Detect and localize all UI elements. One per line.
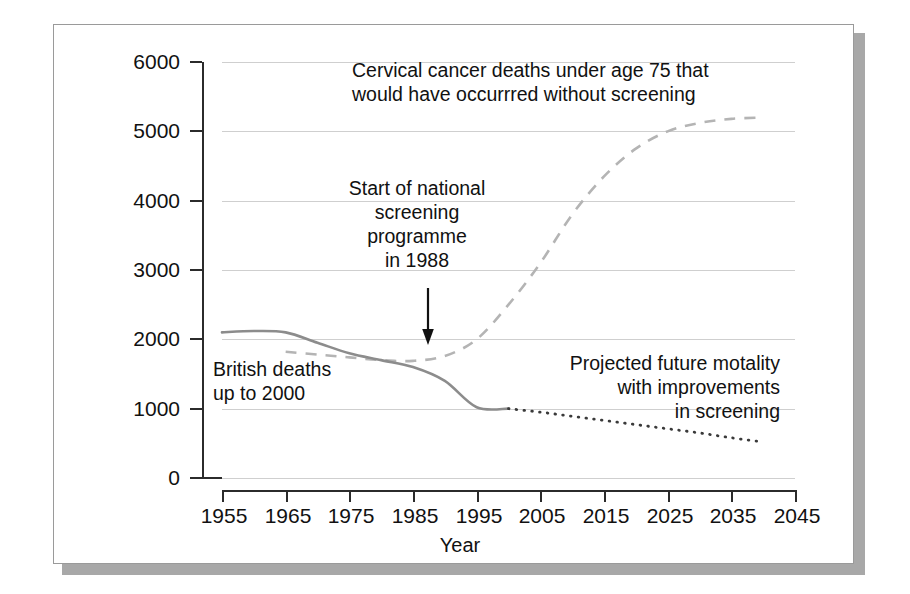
x-axis-title: Year <box>0 534 910 557</box>
x-tick-1975 <box>349 490 351 502</box>
y-tick-6000 <box>190 61 202 63</box>
y-tick-2000 <box>190 338 202 340</box>
y-tick-label-3000: 3000 <box>110 259 180 280</box>
y-tick-label-6000: 6000 <box>110 51 180 72</box>
x-axis-title-text: Year <box>440 534 480 556</box>
y-tick-label-2000: 2000 <box>110 328 180 349</box>
y-tick-3000 <box>190 269 202 271</box>
y-tick-label-4000: 4000 <box>110 190 180 211</box>
y-tick-label-1000: 1000 <box>110 398 180 419</box>
y-tick-4000 <box>190 200 202 202</box>
y-tick-0 <box>190 477 202 479</box>
figure-root: 6000 5000 4000 3000 2000 1000 0 Annual d… <box>0 0 910 594</box>
x-tick-label-2045: 2045 <box>757 505 837 527</box>
y-tick-label-0: 0 <box>110 467 180 488</box>
x-tick-2015 <box>604 490 606 502</box>
annotation-screening-start: Start of national screening programme in… <box>322 176 512 272</box>
y-tick-label-5000: 5000 <box>110 120 180 141</box>
x-tick-2025 <box>668 490 670 502</box>
gridline-2000 <box>222 339 795 340</box>
x-tick-1985 <box>413 490 415 502</box>
gridline-5000 <box>222 131 795 132</box>
y-tick-1000 <box>190 408 202 410</box>
y-tick-5000 <box>190 130 202 132</box>
x-tick-2045 <box>795 490 797 502</box>
y-axis-line <box>202 62 204 479</box>
x-tick-2005 <box>540 490 542 502</box>
x-tick-2035 <box>731 490 733 502</box>
x-tick-1955 <box>222 490 224 502</box>
y-axis-foot <box>202 477 222 479</box>
annotation-british-deaths: British deaths up to 2000 <box>213 357 433 405</box>
annotation-projected-future: Projected future motality with improveme… <box>490 351 780 423</box>
x-axis-line <box>222 490 796 492</box>
x-tick-1995 <box>477 490 479 502</box>
annotation-headline: Cervical cancer deaths under age 75 that… <box>352 58 772 106</box>
x-tick-1965 <box>286 490 288 502</box>
gridline-0 <box>222 478 795 479</box>
